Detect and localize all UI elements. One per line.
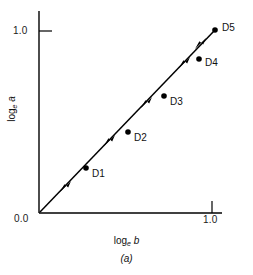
data-point-label-d4: D4 (205, 57, 218, 68)
data-line (40, 30, 215, 212)
data-point-label-d5: D5 (222, 22, 235, 33)
data-point-label-d1: D1 (92, 168, 105, 179)
x-axis-tick-label-max: 1.0 (203, 214, 218, 225)
data-point-d1[interactable] (83, 165, 89, 171)
data-point-d2[interactable] (125, 129, 131, 135)
y-axis-title-base: log (6, 108, 17, 121)
x-axis-title-variable: b (134, 235, 140, 246)
y-axis-title-subscript: e (11, 105, 18, 109)
y-axis-tick-label-max: 1.0 (13, 25, 28, 36)
direction-arrow-3 (141, 97, 152, 108)
y-axis-title: loge a (6, 79, 18, 139)
plot-canvas (0, 0, 253, 275)
data-point-label-d2: D2 (134, 132, 147, 143)
figure-caption: (a) (0, 253, 253, 264)
data-point-d5[interactable] (212, 27, 218, 33)
origin-tick-label: 0.0 (14, 213, 29, 224)
x-axis-title-subscript: e (127, 240, 131, 247)
y-axis-title-variable: a (6, 96, 17, 102)
x-axis-title: loge b (0, 235, 253, 247)
direction-arrow-5 (195, 38, 206, 49)
figure-panel: 1.0 0.0 1.0 D1 D2 D3 D4 D5 loge a loge b… (0, 0, 253, 275)
data-point-d4[interactable] (196, 56, 202, 62)
data-point-d3[interactable] (161, 93, 167, 99)
x-axis-title-base: log (114, 235, 127, 246)
data-point-label-d3: D3 (170, 96, 183, 107)
direction-arrow-4 (179, 57, 190, 68)
